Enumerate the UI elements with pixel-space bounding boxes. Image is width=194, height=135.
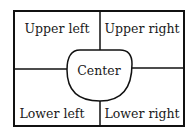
- label-upper-right: Upper right: [105, 21, 180, 36]
- region-diagram: Upper left Upper right Center Lower left…: [0, 0, 194, 135]
- label-lower-right: Lower right: [105, 106, 180, 121]
- label-center: Center: [77, 63, 120, 78]
- label-lower-left: Lower left: [20, 106, 85, 121]
- label-upper-left: Upper left: [25, 21, 90, 36]
